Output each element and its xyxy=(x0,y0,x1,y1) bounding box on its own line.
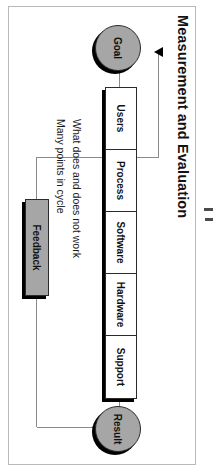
stack-item-support-label: Support xyxy=(116,348,127,386)
connector-top-to-goal xyxy=(158,53,159,157)
page-canvas: Measurement and Evaluation Goal xyxy=(0,0,214,476)
stack-item-hardware-label: Hardware xyxy=(116,282,127,328)
annotation-line-2: Many points in cycle xyxy=(55,119,67,214)
node-feedback-label: Feedback xyxy=(32,224,43,270)
connector-result-to-feedback xyxy=(36,296,37,427)
stack-item-users-label: Users xyxy=(116,105,127,133)
stack-item-hardware[interactable]: Hardware xyxy=(106,274,136,336)
node-goal-label: Goal xyxy=(113,37,124,59)
node-result-label: Result xyxy=(113,414,124,445)
diagram-title: Measurement and Evaluation xyxy=(175,15,191,218)
stack-item-software-label: Software xyxy=(116,221,127,263)
diagram-rotation-wrapper: Measurement and Evaluation Goal xyxy=(9,7,197,466)
stack-item-process-label: Process xyxy=(116,161,127,200)
component-stack: Users Process Software Hardware Support xyxy=(105,87,137,399)
arrowhead-into-goal-icon xyxy=(154,47,163,57)
stack-item-support[interactable]: Support xyxy=(106,336,136,398)
diagram-canvas: Measurement and Evaluation Goal xyxy=(9,7,197,466)
page-frame: Measurement and Evaluation Goal xyxy=(8,6,196,465)
node-feedback[interactable]: Feedback xyxy=(25,199,49,296)
page-edge-mark-upper xyxy=(204,208,213,211)
connector-goal-to-stack xyxy=(119,69,120,88)
stack-item-software[interactable]: Software xyxy=(106,212,136,274)
page-edge-mark-lower xyxy=(205,218,213,221)
stack-item-process[interactable]: Process xyxy=(106,150,136,212)
connector-feedback-out xyxy=(36,157,37,199)
annotation-line-1: What does and does not work xyxy=(71,119,83,258)
node-goal[interactable]: Goal xyxy=(95,25,141,71)
stack-item-users[interactable]: Users xyxy=(106,88,136,150)
node-result[interactable]: Result xyxy=(95,406,141,452)
connector-result-down xyxy=(37,427,97,428)
